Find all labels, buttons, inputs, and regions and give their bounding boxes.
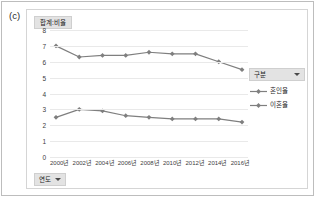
data-point-marker[interactable] — [147, 115, 152, 120]
data-point-marker[interactable] — [147, 50, 152, 55]
gridline — [50, 109, 248, 110]
data-point-marker[interactable] — [193, 51, 198, 56]
legend-item-label: 이혼율 — [270, 101, 288, 109]
measure-selector[interactable]: 합계:비율 — [34, 16, 72, 29]
panel-label: (c) — [9, 10, 20, 21]
data-point-marker[interactable] — [123, 53, 128, 58]
y-axis-tick: 2 — [42, 122, 46, 129]
data-point-marker[interactable] — [240, 67, 245, 72]
gridline — [50, 94, 248, 95]
data-point-marker[interactable] — [170, 116, 175, 121]
plot-wrapper: 876543210 — [34, 30, 248, 157]
data-point-marker[interactable] — [240, 120, 245, 125]
y-axis-tick: 5 — [42, 74, 46, 81]
legend-swatch-icon — [250, 102, 267, 109]
legend-item-label: 혼인율 — [270, 87, 288, 95]
gridline — [50, 125, 248, 126]
data-point-marker[interactable] — [123, 113, 128, 118]
x-axis-tick: 2002년 — [73, 159, 92, 167]
gridline — [50, 157, 248, 158]
gridline — [50, 78, 248, 79]
legend-header[interactable]: 구분 — [249, 68, 305, 81]
gridline — [50, 62, 248, 63]
y-axis-tick: 6 — [42, 58, 46, 65]
x-axis-tick: 2000년 — [50, 159, 69, 167]
plot-area — [50, 30, 248, 157]
data-point-marker[interactable] — [77, 55, 82, 60]
chevron-down-icon — [55, 178, 61, 181]
y-axis: 876543210 — [34, 30, 48, 157]
gridline — [50, 30, 248, 31]
y-axis-tick: 0 — [42, 154, 46, 161]
x-axis-tick: 2010년 — [163, 159, 182, 167]
x-axis-tick: 2014년 — [208, 159, 227, 167]
x-axis-tick: 2006년 — [118, 159, 137, 167]
legend-header-label: 구분 — [254, 70, 266, 79]
legend-swatch-icon — [250, 88, 267, 95]
y-axis-tick: 7 — [42, 42, 46, 49]
chart-panel: 합계:비율 876543210 2000년2002년2004년2006년2008… — [26, 9, 308, 189]
y-axis-tick: 4 — [42, 90, 46, 97]
series-line — [56, 46, 242, 70]
data-point-marker[interactable] — [54, 115, 59, 120]
data-point-marker[interactable] — [100, 53, 105, 58]
legend-item[interactable]: 혼인율 — [249, 87, 305, 95]
gridline — [50, 141, 248, 142]
y-axis-tick: 1 — [42, 138, 46, 145]
data-point-marker[interactable] — [216, 116, 221, 121]
x-axis-tick: 2016년 — [231, 159, 250, 167]
dimension-selector[interactable]: 연도 — [34, 173, 66, 186]
data-point-marker[interactable] — [170, 51, 175, 56]
dimension-selector-label: 연도 — [39, 175, 51, 184]
legend: 구분 혼인율이혼율 — [249, 68, 305, 109]
x-axis-tick: 2012년 — [185, 159, 204, 167]
legend-item[interactable]: 이혼율 — [249, 101, 305, 109]
x-axis: 2000년2002년2004년2006년2008년2010년2012년2014년… — [50, 159, 250, 171]
y-axis-tick: 3 — [42, 106, 46, 113]
legend-items: 혼인율이혼율 — [249, 87, 305, 109]
y-axis-tick: 8 — [42, 27, 46, 34]
data-point-marker[interactable] — [193, 116, 198, 121]
gridline — [50, 46, 248, 47]
figure-container: (c) 합계:비율 876543210 2000년2002년2004년2006년… — [0, 0, 316, 198]
chevron-down-icon — [294, 73, 300, 76]
x-axis-tick: 2008년 — [140, 159, 159, 167]
x-axis-tick: 2004년 — [95, 159, 114, 167]
